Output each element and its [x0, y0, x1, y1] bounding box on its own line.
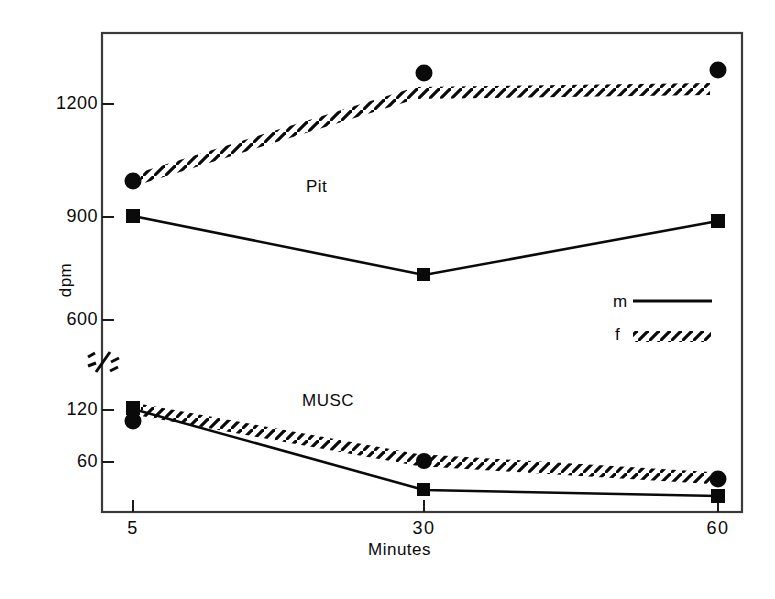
legend-label-m: m	[613, 292, 627, 312]
y-axis-ticks	[102, 104, 114, 462]
x-tick-label-60: 60	[693, 518, 743, 539]
group-label-musc: MUSC	[302, 391, 354, 411]
x-axis-label: Minutes	[368, 540, 431, 560]
series-f-lower-band	[141, 404, 710, 484]
chart-canvas	[0, 0, 775, 599]
y-tick-label-60: 60	[48, 451, 98, 472]
legend-swatch-f	[633, 331, 711, 342]
x-tick-label-5: 5	[108, 518, 158, 539]
y-tick-label-600: 600	[48, 309, 98, 330]
y-tick-label-1200: 1200	[48, 93, 98, 114]
group-label-pit: Pit	[306, 177, 327, 197]
x-axis-ticks	[133, 500, 718, 512]
series-m-upper-markers	[126, 209, 725, 281]
chart-figure: dpm 1200 900 600 120 60 5 30 60 Minutes …	[0, 0, 775, 599]
y-axis-label: dpm	[54, 250, 78, 310]
series-f-upper-markers	[125, 62, 727, 190]
series-m-lower-markers	[126, 401, 725, 503]
y-axis-label-wrap: dpm	[36, 268, 96, 292]
x-tick-label-30: 30	[399, 518, 449, 539]
series-m-upper-line	[133, 216, 718, 275]
y-tick-label-900: 900	[48, 206, 98, 227]
legend-label-f: f	[615, 325, 620, 345]
axis-break-icon	[88, 352, 119, 372]
y-tick-label-120: 120	[48, 399, 98, 420]
series-f-upper-band	[141, 83, 710, 184]
